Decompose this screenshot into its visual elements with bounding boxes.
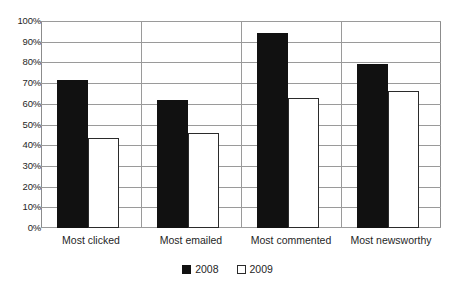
- category-separator: [141, 21, 142, 228]
- y-tick-label: 80%: [5, 57, 41, 67]
- legend-item: 2009: [237, 264, 273, 275]
- y-tick-label: 70%: [5, 78, 41, 88]
- legend-item: 2008: [182, 264, 218, 275]
- bar: [57, 80, 88, 228]
- bar: [157, 100, 188, 228]
- y-tick-label: 0%: [5, 223, 41, 233]
- y-tick-label: 90%: [5, 37, 41, 47]
- chart-legend: 20082009: [0, 264, 455, 275]
- x-axis-label: Most clicked: [41, 234, 141, 246]
- x-axis-label: Most commented: [241, 234, 341, 246]
- bar: [257, 33, 288, 228]
- legend-label: 2009: [250, 264, 273, 275]
- bar: [388, 91, 419, 228]
- y-tick-label: 40%: [5, 140, 41, 150]
- bar: [188, 133, 219, 228]
- y-axis: 0%10%20%30%40%50%60%70%80%90%100%: [0, 0, 41, 292]
- y-tick-label: 10%: [5, 202, 41, 212]
- plot-area: [41, 21, 441, 228]
- y-tick-label: 30%: [5, 161, 41, 171]
- x-axis-label: Most emailed: [141, 234, 241, 246]
- bar: [357, 64, 388, 228]
- legend-label: 2008: [195, 264, 218, 275]
- y-tick-mark: [37, 228, 41, 229]
- x-axis-label: Most newsworthy: [341, 234, 441, 246]
- bar: [88, 138, 119, 228]
- y-tick-label: 60%: [5, 99, 41, 109]
- bar: [288, 98, 319, 228]
- category-separator: [241, 21, 242, 228]
- y-tick-label: 100%: [5, 16, 41, 26]
- y-tick-label: 50%: [5, 120, 41, 130]
- bar-chart: 0%10%20%30%40%50%60%70%80%90%100% Most c…: [0, 0, 455, 292]
- y-tick-label: 20%: [5, 182, 41, 192]
- legend-swatch-icon: [182, 265, 191, 274]
- category-separator: [341, 21, 342, 228]
- legend-swatch-icon: [237, 265, 246, 274]
